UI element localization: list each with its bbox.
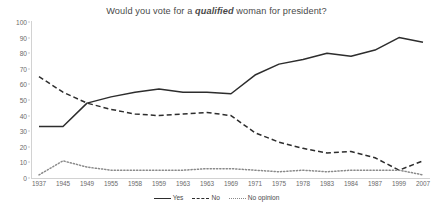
- legend-item-label: Yes: [173, 194, 184, 201]
- series-line-no: [39, 77, 423, 171]
- y-axis-tick-label: 80: [20, 50, 27, 57]
- y-axis-tick-label: 100: [16, 19, 27, 26]
- y-axis-tick-label: 40: [20, 112, 27, 119]
- y-axis-line: [31, 21, 32, 179]
- x-axis-tick-label: 1983: [320, 180, 334, 187]
- chart-legend: YesNoNo opinion: [0, 194, 433, 201]
- x-axis-tick-label: 1978: [296, 180, 310, 187]
- legend-swatch-dotted-icon: [229, 195, 246, 201]
- y-axis-tick-label: 0: [23, 175, 27, 182]
- series-line-yes: [39, 38, 423, 127]
- y-axis-tick-mark: [28, 37, 30, 38]
- x-axis-tick-label: 1963: [176, 180, 190, 187]
- y-axis-tick-mark: [28, 84, 30, 85]
- y-axis-tick-label: 50: [20, 97, 27, 104]
- legend-item-label: No: [211, 194, 219, 201]
- x-axis-tick-label: 1955: [104, 180, 118, 187]
- series-lines: [33, 22, 429, 178]
- y-axis-tick-label: 60: [20, 81, 27, 88]
- y-axis-tick-mark: [28, 100, 30, 101]
- chart-title-suffix: woman for president?: [234, 6, 327, 16]
- y-axis-tick-mark: [28, 178, 30, 179]
- x-axis-tick-label: 1959: [152, 180, 166, 187]
- x-axis-tick-label: 1987: [368, 180, 382, 187]
- x-axis-tick-label: 1949: [80, 180, 94, 187]
- legend-swatch-dashed-icon: [192, 195, 209, 201]
- y-axis-tick-mark: [28, 146, 30, 147]
- y-axis-tick-label: 30: [20, 128, 27, 135]
- chart-title-emphasis: qualified: [195, 6, 234, 16]
- x-axis-tick-label: 1975: [272, 180, 286, 187]
- legend-item-yes[interactable]: Yes: [154, 194, 184, 201]
- x-axis-tick-label: 1984: [344, 180, 358, 187]
- legend-item-label: No opinion: [248, 194, 280, 201]
- x-axis-tick-label: 1945: [56, 180, 70, 187]
- x-axis-tick-label: 2007: [416, 180, 430, 187]
- y-axis-tick-label: 70: [20, 65, 27, 72]
- x-axis-tick-label: 1971: [248, 180, 262, 187]
- chart-title: Would you vote for a qualified woman for…: [0, 6, 433, 16]
- legend-item-no[interactable]: No: [192, 194, 219, 201]
- x-axis-tick-label: 1999: [392, 180, 406, 187]
- x-axis-tick-label: 1958: [128, 180, 142, 187]
- plot-area: [33, 22, 429, 178]
- x-axis-tick-label: 1937: [32, 180, 46, 187]
- x-axis-tick-label: 1969: [224, 180, 238, 187]
- y-axis-tick-mark: [28, 22, 30, 23]
- series-line-no-opinion: [39, 161, 423, 175]
- x-axis-tick-label: 1963: [200, 180, 214, 187]
- y-axis-tick-label: 20: [20, 143, 27, 150]
- x-axis-tick-labels: 1937194519491955195819591963196319691971…: [33, 180, 429, 192]
- y-axis-tick-mark: [28, 68, 30, 69]
- y-axis-tick-mark: [28, 131, 30, 132]
- y-axis-tick-labels: 0102030405060708090100: [0, 22, 30, 178]
- y-axis-tick-mark: [28, 115, 30, 116]
- chart-container: Would you vote for a qualified woman for…: [0, 0, 433, 212]
- x-axis-line: [31, 178, 430, 179]
- y-axis-tick-label: 10: [20, 159, 27, 166]
- y-axis-tick-mark: [28, 53, 30, 54]
- y-axis-tick-mark: [28, 162, 30, 163]
- chart-title-prefix: Would you vote for a: [106, 6, 195, 16]
- legend-item-no-opinion[interactable]: No opinion: [229, 194, 280, 201]
- y-axis-tick-label: 90: [20, 34, 27, 41]
- legend-swatch-solid-icon: [154, 195, 171, 201]
